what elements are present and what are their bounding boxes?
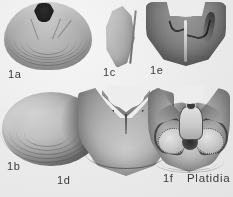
cardinal-notch <box>108 86 144 108</box>
figure-1e-specimen <box>146 2 226 66</box>
figure-label-1c: 1c <box>103 66 116 78</box>
cardinal-notch <box>172 1 200 17</box>
figure-label-1d: 1d <box>57 174 70 186</box>
figure-label-1e: 1e <box>150 64 163 76</box>
median-septum <box>184 20 187 62</box>
growth-line <box>27 29 69 55</box>
cardinal-notch <box>176 86 204 104</box>
growth-line <box>161 156 217 171</box>
median-septum <box>125 114 127 134</box>
fossil-plate-figure: 1a 1c 1e 1b 1d <box>0 0 233 197</box>
cardinal-plate <box>179 106 203 140</box>
figure-label-1f: 1f <box>163 172 173 184</box>
figure-1f-specimen <box>148 88 230 172</box>
figure-1a-specimen <box>4 2 92 70</box>
figure-label-1b: 1b <box>7 160 20 172</box>
figure-label-1a: 1a <box>8 68 21 80</box>
figure-1c-specimen <box>104 6 136 68</box>
genus-name-caption: Platidia <box>187 172 230 184</box>
